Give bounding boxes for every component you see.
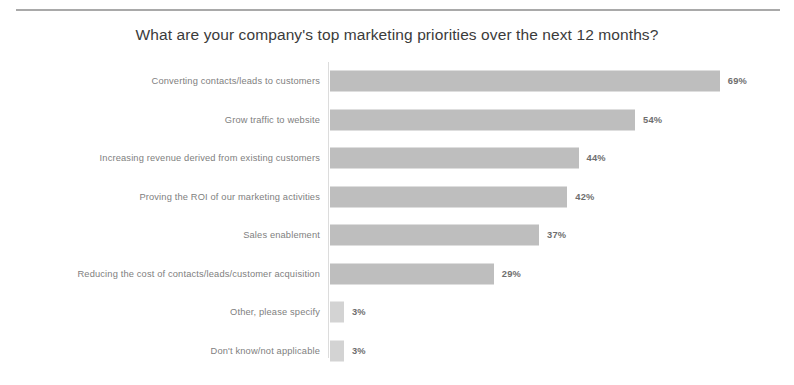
bar-fill[interactable] [330, 302, 344, 323]
bar-track [330, 109, 635, 130]
bar-track [330, 302, 344, 323]
top-divider-rule [16, 9, 780, 11]
bar-value-label: 3% [352, 307, 366, 317]
chart-title: What are your company's top marketing pr… [0, 26, 794, 44]
bar-category-label: Grow traffic to website [225, 115, 320, 125]
bar-row: Grow traffic to website54% [0, 101, 794, 140]
bar-row: Don't know/not applicable3% [0, 332, 794, 371]
bar-fill[interactable] [330, 263, 494, 284]
bar-row: Sales enablement37% [0, 216, 794, 255]
bar-category-label: Increasing revenue derived from existing… [100, 153, 320, 163]
bar-fill[interactable] [330, 340, 344, 361]
bar-value-label: 42% [575, 192, 594, 202]
chart-screenshot: What are your company's top marketing pr… [0, 0, 794, 385]
bar-track [330, 71, 720, 92]
bar-fill[interactable] [330, 109, 635, 130]
bar-track [330, 148, 579, 169]
bar-chart-plot-area: Converting contacts/leads to customers69… [0, 62, 794, 372]
bar-row: Reducing the cost of contacts/leads/cust… [0, 255, 794, 294]
bar-track [330, 186, 567, 207]
bar-row: Other, please specify3% [0, 293, 794, 332]
bar-fill[interactable] [330, 71, 720, 92]
bar-track [330, 225, 539, 246]
bar-row: Increasing revenue derived from existing… [0, 139, 794, 178]
bar-category-label: Converting contacts/leads to customers [152, 76, 320, 86]
bar-value-label: 37% [547, 230, 566, 240]
bar-value-label: 69% [728, 76, 747, 86]
bar-category-label: Reducing the cost of contacts/leads/cust… [78, 269, 321, 279]
bar-category-label: Proving the ROI of our marketing activit… [139, 192, 320, 202]
bar-track [330, 263, 494, 284]
bar-fill[interactable] [330, 186, 567, 207]
bar-fill[interactable] [330, 225, 539, 246]
bar-value-label: 44% [587, 153, 606, 163]
bar-fill[interactable] [330, 148, 579, 169]
bar-value-label: 54% [643, 115, 662, 125]
bar-value-label: 29% [502, 269, 521, 279]
bar-row: Proving the ROI of our marketing activit… [0, 178, 794, 217]
bar-row: Converting contacts/leads to customers69… [0, 62, 794, 101]
bar-value-label: 3% [352, 346, 366, 356]
bar-category-label: Other, please specify [230, 307, 320, 317]
bar-category-label: Sales enablement [243, 230, 320, 240]
bar-track [330, 340, 344, 361]
bar-category-label: Don't know/not applicable [211, 346, 320, 356]
